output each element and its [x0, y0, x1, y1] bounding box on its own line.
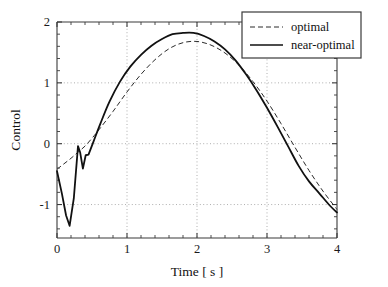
x-tick-label: 2	[194, 242, 200, 256]
chart-figure: 01234 -1012 Time [ s ] Control optimal n…	[0, 0, 388, 287]
y-tick-label: 0	[44, 137, 50, 151]
y-tick-label: -1	[40, 198, 50, 212]
x-tick-label: 4	[334, 242, 341, 256]
y-tick-label: 1	[44, 76, 50, 90]
x-tick-label: 1	[124, 242, 130, 256]
x-axis-title: Time [ s ]	[171, 264, 223, 279]
y-tick-labels: -1012	[40, 15, 50, 212]
legend-label-optimal: optimal	[291, 20, 330, 34]
y-axis-title: Control	[8, 109, 23, 151]
legend: optimal near-optimal	[242, 12, 361, 58]
y-tick-label: 2	[44, 15, 50, 29]
control-vs-time-line-chart: 01234 -1012 Time [ s ] Control optimal n…	[0, 0, 388, 287]
x-tick-labels: 01234	[54, 242, 341, 256]
x-tick-label: 3	[264, 242, 270, 256]
x-tick-label: 0	[54, 242, 60, 256]
legend-label-near-optimal: near-optimal	[291, 38, 355, 52]
